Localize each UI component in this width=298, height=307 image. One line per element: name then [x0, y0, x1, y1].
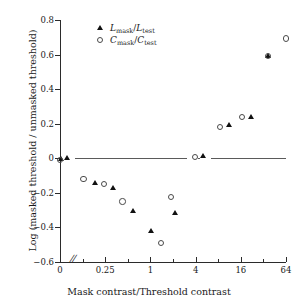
data-point-cmask: [158, 240, 164, 246]
x-tick-label: 4: [181, 266, 211, 275]
x-tick: [241, 257, 242, 262]
filled-triangle-icon: [97, 25, 103, 30]
data-point-cmask: [192, 154, 198, 160]
data-point-lmask: [226, 122, 232, 127]
x-tick-label: 1: [135, 266, 165, 275]
data-point-lmask: [64, 155, 70, 160]
y-axis-line: [60, 20, 61, 262]
x-minor-tick: [128, 259, 129, 262]
data-point-cmask: [168, 194, 174, 200]
data-point-lmask: [148, 228, 154, 233]
x-tick-label: 0.25: [90, 266, 120, 275]
data-point-cmask: [57, 157, 63, 163]
data-point-cmask: [239, 114, 245, 120]
x-minor-tick: [263, 259, 264, 262]
data-point-lmask: [248, 114, 254, 119]
data-point-cmask: [265, 53, 271, 59]
y-tick: [55, 262, 60, 263]
y-tick: [55, 193, 60, 194]
x-axis-line: [60, 262, 286, 263]
x-minor-tick: [83, 259, 84, 262]
x-tick-label: 64: [271, 266, 298, 275]
scatter-chart-figure: 0.80.60.40.20−0.2−0.4−0.6 00.25141664 //…: [0, 0, 298, 307]
zero-line-segment: [75, 158, 188, 159]
data-point-cmask: [217, 124, 223, 130]
x-tick: [60, 257, 61, 262]
data-point-cmask: [283, 35, 289, 41]
x-tick: [105, 257, 106, 262]
y-axis-title: Log (masked threshold / unmasked thresho…: [27, 16, 38, 266]
x-axis-title: Mask contrast/Threshold contrast: [0, 286, 298, 297]
data-point-cmask: [119, 198, 125, 204]
legend-label-cmask: Cmask/Ctest: [110, 34, 157, 47]
zero-line-segment: [198, 158, 200, 159]
y-tick: [55, 55, 60, 56]
y-tick: [55, 227, 60, 228]
data-point-lmask: [172, 210, 178, 215]
data-point-cmask: [101, 181, 107, 187]
x-tick: [286, 257, 287, 262]
x-tick-label: 0: [45, 266, 75, 275]
x-minor-tick: [173, 259, 174, 262]
x-minor-tick: [218, 259, 219, 262]
zero-line-segment: [211, 158, 286, 159]
data-point-lmask: [200, 153, 206, 158]
y-tick: [55, 124, 60, 125]
x-tick-label: 16: [226, 266, 256, 275]
y-tick: [55, 89, 60, 90]
x-tick: [196, 257, 197, 262]
open-circle-icon: [97, 37, 103, 43]
y-tick: [55, 20, 60, 21]
data-point-lmask: [130, 208, 136, 213]
data-point-cmask: [80, 176, 86, 182]
x-tick: [150, 257, 151, 262]
data-point-lmask: [110, 185, 116, 190]
data-point-lmask: [92, 180, 98, 185]
